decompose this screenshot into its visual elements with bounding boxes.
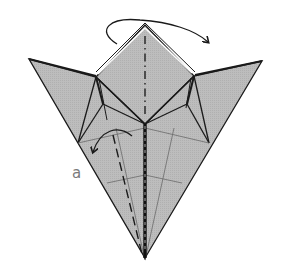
step-label-a: a (72, 164, 81, 182)
origami-diagram: a (0, 0, 281, 278)
